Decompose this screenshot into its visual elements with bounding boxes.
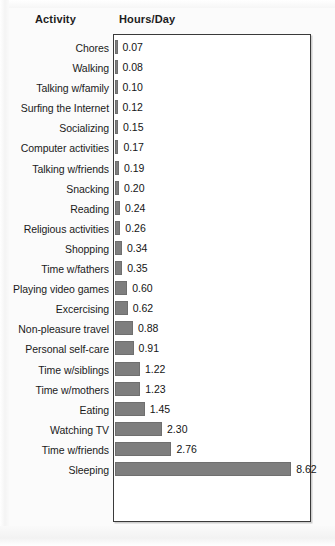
- bar-and-value: 1.23: [115, 382, 166, 396]
- bar-row: Shopping0.34: [0, 240, 335, 260]
- bar-row: Time w/fathers0.35: [0, 260, 335, 280]
- bar: [115, 40, 118, 54]
- column-header-activity: Activity: [35, 13, 76, 25]
- bar-category-label: Computer activities: [21, 142, 109, 154]
- bar-and-value: 0.62: [115, 301, 153, 315]
- bar-value-label: 0.91: [139, 342, 159, 354]
- bar: [115, 161, 119, 175]
- bar: [115, 140, 118, 154]
- bar-value-label: 0.88: [138, 322, 158, 334]
- bar-and-value: 0.07: [115, 40, 143, 54]
- bar-row: Computer activities0.17: [0, 139, 335, 159]
- bar-row: Non-pleasure travel0.88: [0, 320, 335, 340]
- bar-row: Walking0.08: [0, 59, 335, 79]
- bar: [115, 442, 171, 456]
- bar-row: Talking w/friends0.19: [0, 160, 335, 180]
- bar-and-value: 0.24: [115, 201, 145, 215]
- bar-and-value: 0.19: [115, 161, 144, 175]
- bar-category-label: Socializing: [59, 122, 109, 134]
- bar: [115, 201, 120, 215]
- bar-and-value: 0.60: [115, 281, 153, 295]
- bar-row: Eating1.45: [0, 401, 335, 421]
- bar-and-value: 0.08: [115, 60, 143, 74]
- bar-category-label: Time w/friends: [42, 444, 109, 456]
- bar-row: Religious activities0.26: [0, 220, 335, 240]
- column-header-hours-per-day: Hours/Day: [119, 13, 175, 25]
- bar-rows-container: Chores0.07Walking0.08Talking w/family0.1…: [0, 39, 335, 481]
- bar-category-label: Snacking: [66, 183, 109, 195]
- bar-category-label: Time w/fathers: [41, 263, 109, 275]
- bar-and-value: 0.15: [115, 120, 144, 134]
- bar: [115, 362, 140, 376]
- bar: [115, 241, 122, 255]
- bar: [115, 80, 118, 94]
- bar-category-label: Surfing the Internet: [21, 102, 109, 114]
- bar: [115, 60, 118, 74]
- bar-category-label: Religious activities: [24, 223, 109, 235]
- bar-value-label: 0.34: [127, 242, 147, 254]
- bar-value-label: 0.20: [124, 182, 144, 194]
- bar-and-value: 0.91: [115, 341, 159, 355]
- bar-value-label: 8.62: [296, 463, 316, 475]
- bar-and-value: 0.34: [115, 241, 147, 255]
- bar-row: Watching TV2.30: [0, 421, 335, 441]
- bar-row: Time w/friends2.76: [0, 441, 335, 461]
- bar-value-label: 0.15: [123, 121, 143, 133]
- bar-value-label: 0.08: [123, 61, 143, 73]
- bar: [115, 341, 134, 355]
- bar-row: Time w/mothers1.23: [0, 381, 335, 401]
- bar-chart-figure: Activity Hours/Day Chores0.07Walking0.08…: [0, 0, 335, 546]
- bar: [115, 462, 291, 476]
- bar: [115, 301, 128, 315]
- bar-and-value: 0.88: [115, 321, 158, 335]
- bar-value-label: 0.17: [123, 141, 143, 153]
- bar-row: Reading0.24: [0, 200, 335, 220]
- page-edge-top: [0, 0, 335, 8]
- bar-category-label: Talking w/family: [36, 82, 109, 94]
- bar: [115, 100, 118, 114]
- bar: [115, 281, 127, 295]
- bar: [115, 321, 133, 335]
- bar-row: Talking w/family0.10: [0, 79, 335, 99]
- bar-row: Sleeping8.62: [0, 461, 335, 481]
- bar-row: Time w/siblings1.22: [0, 361, 335, 381]
- bar-category-label: Eating: [80, 404, 109, 416]
- bar-value-label: 2.76: [176, 443, 196, 455]
- bar-value-label: 0.24: [125, 202, 145, 214]
- bar-category-label: Shopping: [65, 243, 109, 255]
- bar-row: Personal self-care0.91: [0, 340, 335, 360]
- bar-value-label: 0.19: [124, 162, 144, 174]
- bar-and-value: 1.22: [115, 362, 165, 376]
- bar-and-value: 1.45: [115, 402, 170, 416]
- bar: [115, 422, 162, 436]
- bar-and-value: 0.35: [115, 261, 148, 275]
- bar: [115, 261, 122, 275]
- bar-value-label: 0.60: [132, 282, 152, 294]
- page-edge-bottom: [0, 526, 335, 546]
- bar-category-label: Talking w/friends: [32, 163, 109, 175]
- bar: [115, 120, 118, 134]
- bar-category-label: Time w/siblings: [38, 364, 109, 376]
- bar-category-label: Watching TV: [50, 424, 109, 436]
- bar-and-value: 2.30: [115, 422, 187, 436]
- bar-category-label: Personal self-care: [25, 343, 109, 355]
- bar-value-label: 0.62: [133, 302, 153, 314]
- bar-row: Chores0.07: [0, 39, 335, 59]
- bar: [115, 382, 140, 396]
- bar-category-label: Chores: [75, 42, 109, 54]
- bar-category-label: Non-pleasure travel: [18, 323, 109, 335]
- bar-and-value: 0.10: [115, 80, 143, 94]
- bar: [115, 402, 145, 416]
- bar-value-label: 0.07: [123, 41, 143, 53]
- bar-and-value: 0.12: [115, 100, 143, 114]
- bar: [115, 181, 119, 195]
- bar-value-label: 1.23: [145, 383, 165, 395]
- bar-category-label: Excercising: [56, 303, 109, 315]
- bar-value-label: 0.12: [123, 101, 143, 113]
- bar-value-label: 1.45: [150, 403, 170, 415]
- bar-category-label: Walking: [72, 62, 109, 74]
- bar-and-value: 8.62: [115, 462, 317, 476]
- bar-row: Playing video games0.60: [0, 280, 335, 300]
- bar-category-label: Sleeping: [69, 464, 109, 476]
- bar-category-label: Reading: [70, 203, 109, 215]
